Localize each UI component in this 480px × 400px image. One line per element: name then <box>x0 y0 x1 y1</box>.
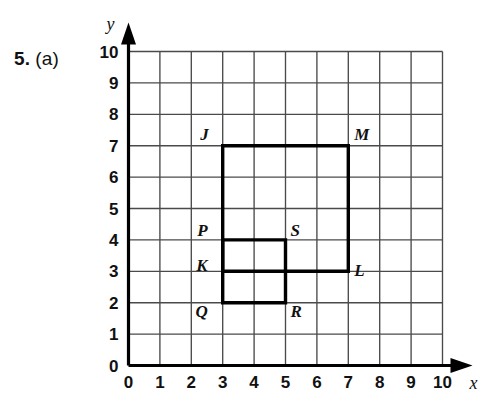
x-tick-label: 4 <box>249 373 259 392</box>
y-tick-label: 1 <box>109 325 118 344</box>
y-tick-label: 5 <box>109 200 118 219</box>
y-tick-label: 2 <box>109 294 118 313</box>
grid-lines <box>129 52 443 366</box>
x-tick-label: 10 <box>433 373 452 392</box>
x-tick-label: 0 <box>124 373 133 392</box>
y-axis-name: y <box>105 14 115 34</box>
point-label-M: M <box>353 125 370 144</box>
y-tick-label: 6 <box>109 168 118 187</box>
x-tick-label: 1 <box>155 373 164 392</box>
y-tick-label: 9 <box>109 74 118 93</box>
x-tick-label: 7 <box>344 373 353 392</box>
x-tick-label: 8 <box>375 373 384 392</box>
y-tick-label: 7 <box>109 137 118 156</box>
x-tick-label: 5 <box>281 373 290 392</box>
point-label-J: J <box>199 125 209 144</box>
tick-labels: 012345678910012345678910 <box>100 43 452 392</box>
point-label-P: P <box>196 221 208 240</box>
y-tick-label: 8 <box>109 105 118 124</box>
y-tick-label: 4 <box>109 231 119 250</box>
y-axis-arrowhead <box>121 23 136 45</box>
x-tick-label: 6 <box>312 373 321 392</box>
x-axis-arrowhead <box>451 358 473 373</box>
point-label-Q: Q <box>195 302 207 321</box>
x-tick-label: 2 <box>187 373 196 392</box>
x-axis-name: x <box>469 373 478 393</box>
y-tick-label: 3 <box>109 262 118 281</box>
y-tick-label: 10 <box>100 43 119 62</box>
point-label-R: R <box>290 302 302 321</box>
x-tick-label: 3 <box>218 373 227 392</box>
y-tick-label: 0 <box>109 357 118 376</box>
point-label-S: S <box>291 221 300 240</box>
point-label-L: L <box>353 261 364 280</box>
x-tick-label: 9 <box>406 373 415 392</box>
point-label-K: K <box>195 256 209 275</box>
coordinate-grid-plot: 012345678910012345678910 JMLKPSRQ xy <box>0 0 480 400</box>
figure-container: 5.(a) 012345678910012345678910 JMLKPSRQ … <box>0 0 480 400</box>
